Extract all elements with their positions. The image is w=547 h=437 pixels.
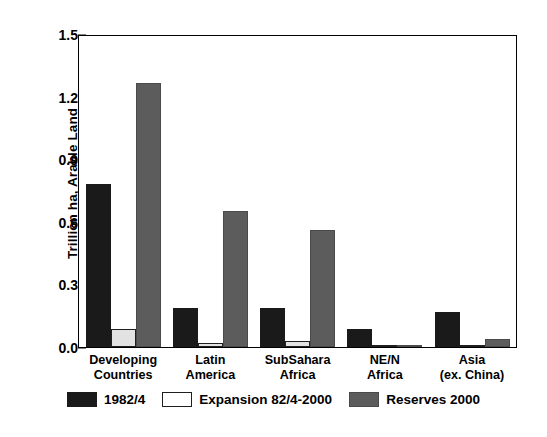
x-category-label: LatinAmerica: [167, 353, 254, 383]
x-category-label-line: Asia: [428, 353, 515, 368]
bar[interactable]: [136, 83, 161, 347]
x-category-label-line: NE/N: [341, 353, 428, 368]
y-tick-label: 1.5: [38, 27, 78, 43]
y-tick-label: 0.6: [38, 215, 78, 231]
bar[interactable]: [285, 341, 310, 347]
legend-swatch: [67, 392, 97, 407]
y-tick-label: 0.0: [38, 340, 78, 356]
bar[interactable]: [485, 339, 510, 347]
x-category-label: DevelopingCountries: [80, 353, 167, 383]
bar[interactable]: [198, 343, 223, 347]
bar-group: [167, 37, 254, 348]
bar[interactable]: [260, 308, 285, 347]
y-tick-label: 0.9: [38, 152, 78, 168]
bar[interactable]: [372, 345, 397, 347]
x-axis-category-labels: DevelopingCountriesLatinAmericaSubSahara…: [80, 353, 516, 383]
y-axis-tick-labels: 0.00.30.60.91.21.5: [30, 35, 78, 348]
legend-swatch: [162, 392, 192, 407]
x-category-label-line: (ex. China): [428, 368, 515, 383]
bar-group: [341, 37, 428, 348]
bar[interactable]: [310, 230, 335, 348]
x-category-label-line: Countries: [80, 368, 167, 383]
bar[interactable]: [460, 345, 485, 347]
x-category-label-line: Africa: [254, 368, 341, 383]
bar[interactable]: [223, 211, 248, 347]
chart-legend: 1982/4Expansion 82/4-2000Reserves 2000: [0, 392, 547, 407]
y-tick-label: 0.3: [38, 277, 78, 293]
legend-label: 1982/4: [104, 392, 145, 407]
x-category-label: Asia(ex. China): [428, 353, 515, 383]
legend-item[interactable]: Reserves 2000: [349, 392, 480, 407]
y-tick-label: 1.2: [38, 90, 78, 106]
bar[interactable]: [86, 184, 111, 347]
x-category-label-line: America: [167, 368, 254, 383]
legend-item[interactable]: Expansion 82/4-2000: [162, 392, 332, 407]
x-category-label: NE/NAfrica: [341, 353, 428, 383]
legend-label: Reserves 2000: [386, 392, 480, 407]
bar-group: [428, 37, 515, 348]
bar-group: [254, 37, 341, 348]
legend-item[interactable]: 1982/4: [67, 392, 145, 407]
bar[interactable]: [397, 345, 422, 347]
bar[interactable]: [435, 312, 460, 347]
x-category-label: SubSaharaAfrica: [254, 353, 341, 383]
legend-label: Expansion 82/4-2000: [199, 392, 332, 407]
bar[interactable]: [111, 329, 136, 348]
x-category-label-line: Africa: [341, 368, 428, 383]
bar-chart: Trillion ha, Arable Land 0.00.30.60.91.2…: [0, 0, 547, 437]
x-category-label-line: SubSahara: [254, 353, 341, 368]
bar[interactable]: [173, 308, 198, 347]
bar-group: [80, 37, 167, 348]
x-category-label-line: Developing: [80, 353, 167, 368]
x-category-label-line: Latin: [167, 353, 254, 368]
legend-swatch: [349, 392, 379, 407]
bar[interactable]: [347, 329, 372, 348]
bars-area: [80, 37, 516, 348]
